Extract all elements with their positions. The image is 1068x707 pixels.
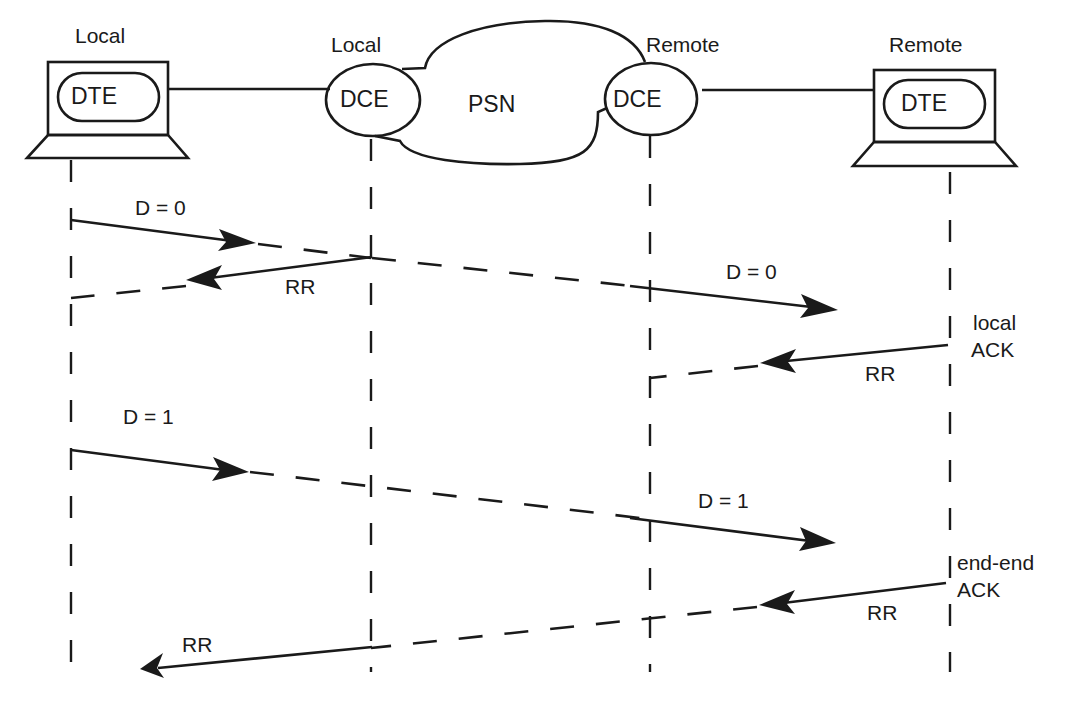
message-rr-remote-local-ack: RR local ACK: [650, 311, 1016, 385]
arrow-dashed-segment: [372, 258, 632, 286]
psn-cloud-top-edge: [402, 21, 645, 69]
remote-dce-caption: Remote: [646, 33, 720, 56]
arrowhead-left-icon: [140, 653, 164, 678]
diagram-canvas: Local DTE PSN Local DCE Remote DCE Remot…: [0, 0, 1068, 707]
remote-dte-node: Remote DTE: [853, 33, 1016, 166]
local-ack-annotation-line1: local: [973, 311, 1016, 334]
arrow-shaft: [630, 518, 818, 542]
local-terminal-keyboard-icon: [27, 135, 188, 158]
local-dce-node: Local DCE: [326, 33, 420, 136]
message-rr-end-end-remote: RR end-end ACK: [371, 551, 1034, 648]
message-d1-local: D = 1: [71, 405, 640, 518]
psn-label: PSN: [468, 91, 515, 117]
message-rr-local-ack: RR: [71, 257, 372, 298]
local-dte-label: DTE: [71, 83, 117, 109]
local-dte-caption: Local: [75, 24, 125, 47]
local-ack-annotation-line2: ACK: [971, 338, 1014, 361]
message-label: D = 1: [698, 489, 749, 512]
local-dce-label: DCE: [340, 86, 389, 112]
message-label: D = 0: [135, 196, 186, 219]
remote-terminal-keyboard-icon: [853, 142, 1016, 166]
end-end-ack-annotation-line1: end-end: [957, 551, 1034, 574]
message-label: RR: [285, 275, 315, 298]
message-d1-remote: D = 1: [630, 489, 836, 551]
message-label: D = 0: [726, 260, 777, 283]
local-dce-caption: Local: [331, 33, 381, 56]
arrow-shaft: [71, 220, 240, 242]
arrow-dashed-continuation: [258, 244, 371, 258]
arrow-shaft: [630, 286, 820, 308]
arrow-dashed-continuation: [371, 607, 757, 648]
message-d0-remote: D = 0: [372, 258, 838, 318]
local-dte-node: Local DTE: [27, 24, 188, 158]
remote-dte-label: DTE: [901, 90, 947, 116]
arrow-dashed-continuation: [71, 286, 186, 298]
remote-dte-caption: Remote: [889, 33, 963, 56]
arrow-dashed-continuation: [650, 366, 758, 378]
remote-dce-node: Remote DCE: [605, 33, 720, 135]
arrow-dashed-continuation: [250, 472, 640, 518]
remote-dce-label: DCE: [613, 86, 662, 112]
message-rr-end-end-local: RR: [140, 633, 372, 678]
message-d0-local: D = 0: [71, 196, 371, 258]
arrow-shaft: [776, 345, 948, 362]
end-end-ack-annotation-line2: ACK: [957, 578, 1000, 601]
arrow-shaft: [775, 583, 946, 604]
arrow-shaft: [71, 450, 232, 471]
message-label: RR: [865, 362, 895, 385]
message-label: D = 1: [123, 405, 174, 428]
message-label: RR: [182, 633, 212, 656]
message-label: RR: [867, 601, 897, 624]
